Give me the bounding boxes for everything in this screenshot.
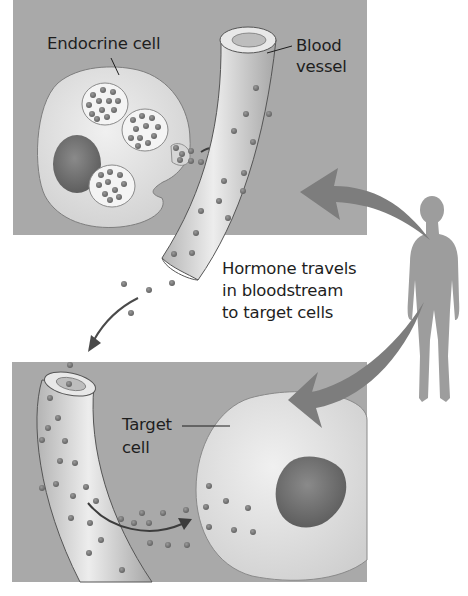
hormone-caption-line1: Hormone travels xyxy=(222,258,356,279)
hormone-transit xyxy=(121,280,175,316)
target-cell-label-line2: cell xyxy=(122,437,150,458)
blood-vessel-label-line1: Blood xyxy=(296,35,342,56)
endocrine-cell-label: Endocrine cell xyxy=(47,33,160,54)
blood-vessel-label-line2: vessel xyxy=(296,56,347,77)
target-cell-label-line1: Target xyxy=(122,414,172,435)
hormone-caption-line2: in bloodstream xyxy=(222,280,343,301)
hormone-caption-line3: to target cells xyxy=(222,302,333,323)
transit-arrow xyxy=(94,298,138,340)
